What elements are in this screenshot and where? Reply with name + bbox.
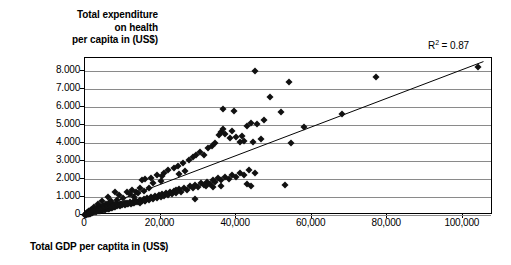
plot-area (84, 57, 492, 214)
plot-inner (85, 58, 491, 213)
gridline-y (85, 215, 491, 216)
y-axis-title-line-2: on health (6, 22, 158, 35)
y-tick-label: 4.000 (8, 137, 80, 147)
r-squared-value: = 0.87 (439, 40, 469, 51)
y-tick-label: 7.000 (8, 83, 80, 93)
x-tick-label: 20,000 (130, 218, 190, 228)
x-tick-label: 60,000 (281, 218, 341, 228)
x-tick-label: 80,000 (356, 218, 416, 228)
x-tick-label: 0 (54, 218, 114, 228)
x-tick-label: 40,000 (205, 218, 265, 228)
x-axis-title: Total GDP per captita in (US$) (30, 241, 168, 252)
y-axis-title-line-3: per capita in (US$) (6, 34, 158, 47)
x-tick-label: 100,000 (432, 218, 492, 228)
r-squared-annotation: R2 = 0.87 (428, 39, 469, 51)
y-axis-title-line-1: Total expenditure (6, 9, 158, 22)
y-tick-label: 1.000 (8, 191, 80, 201)
y-tick-label: 5.000 (8, 119, 80, 129)
y-tick-label: 6.000 (8, 101, 80, 111)
y-tick-label: 2.000 (8, 173, 80, 183)
y-axis-title: Total expenditure on health per capita i… (6, 9, 158, 47)
y-tick-label: 8.000 (8, 65, 80, 75)
y-tick-label: 3.000 (8, 155, 80, 165)
